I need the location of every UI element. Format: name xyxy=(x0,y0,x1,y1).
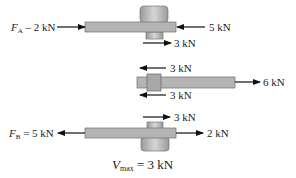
vmax-result: Vmax = 3 kN xyxy=(112,159,173,175)
force-6kn-label: 6 kN xyxy=(263,76,285,88)
force-fb-label: FB = 5 kN xyxy=(9,127,54,143)
plate-top xyxy=(85,22,176,32)
bolt-section-middle xyxy=(147,74,161,91)
plate-bottom xyxy=(85,128,176,138)
force-5kn-label: 5 kN xyxy=(209,21,231,33)
bolt-head-top xyxy=(140,6,168,23)
bolt-head-bottom xyxy=(141,137,169,151)
shear-top-label: 3 kN xyxy=(174,37,196,49)
force-fa-label: FA – 2 kN xyxy=(11,21,56,37)
shear-middle-bottom-label: 3 kN xyxy=(170,89,192,101)
force-2kn-label: 2 kN xyxy=(207,127,229,139)
bolt-shank-top xyxy=(146,32,163,39)
shear-bottom-label: 3 kN xyxy=(174,111,196,123)
shear-middle-top-label: 3 kN xyxy=(170,62,192,74)
middle-assembly xyxy=(137,68,260,95)
